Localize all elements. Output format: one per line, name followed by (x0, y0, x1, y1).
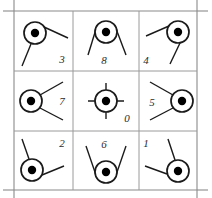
direction-ray-2-0 (22, 139, 29, 159)
direction-ray-4-1 (170, 43, 180, 64)
cell-label-3: 3 (58, 53, 65, 65)
cell-label-2: 2 (59, 137, 65, 149)
cell-label-6: 6 (101, 138, 107, 150)
cell-glyph-8[interactable] (88, 21, 126, 55)
cell-glyph-1[interactable] (145, 139, 189, 182)
node-dot-2 (28, 166, 36, 174)
cell-label-0: 0 (124, 112, 130, 124)
node-dot-6 (102, 168, 110, 176)
node-dot-1 (174, 167, 182, 175)
direction-ray-7-1 (40, 108, 63, 120)
node-dot-0 (102, 97, 110, 105)
direction-ray-7-0 (40, 82, 63, 95)
directional-grid-diagram: 384705261 (0, 0, 212, 198)
cell-glyph-4[interactable] (146, 21, 189, 64)
diagram-canvas: 384705261 (0, 0, 212, 198)
direction-ray-3-1 (22, 44, 31, 66)
cell-glyphs (20, 21, 193, 183)
direction-ray-1-0 (168, 139, 175, 160)
cell-glyph-0[interactable] (88, 83, 124, 119)
direction-ray-5-1 (150, 108, 173, 120)
direction-ray-1-1 (145, 166, 167, 174)
cell-label-1: 1 (143, 137, 149, 149)
cell-glyph-5[interactable] (150, 82, 193, 120)
cell-label-7: 7 (59, 95, 65, 107)
direction-ray-3-0 (44, 27, 68, 38)
node-dot-7 (27, 97, 35, 105)
node-dot-5 (178, 97, 186, 105)
cell-glyph-6[interactable] (86, 146, 126, 183)
node-dot-3 (31, 29, 39, 37)
cell-label-4: 4 (143, 54, 149, 66)
direction-ray-4-0 (146, 26, 169, 36)
cell-glyph-2[interactable] (21, 139, 64, 181)
node-dot-8 (102, 28, 110, 36)
node-dot-4 (174, 28, 182, 36)
cell-label-5: 5 (149, 96, 155, 108)
cell-label-8: 8 (101, 54, 107, 66)
cell-glyph-7[interactable] (20, 82, 63, 120)
direction-ray-2-1 (42, 166, 64, 175)
direction-ray-5-0 (150, 82, 173, 95)
